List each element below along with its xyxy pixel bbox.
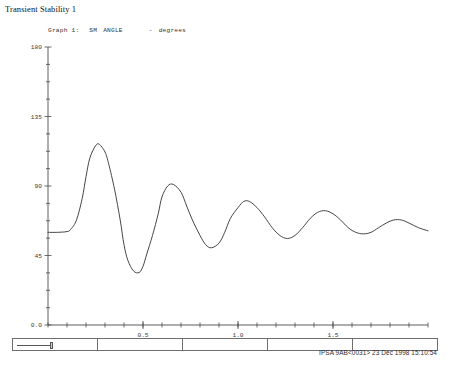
plot-area: 18013590450.0 0.51.01.5 (0, 0, 450, 373)
y-tick-label: 90 (35, 183, 43, 190)
slider-thumb[interactable] (50, 342, 53, 349)
y-tick-label: 0.0 (31, 322, 42, 329)
x-axis: 0.51.01.5 (48, 321, 428, 339)
transient-stability-chart: 18013590450.0 0.51.01.5 (0, 0, 450, 373)
data-curve-sm-angle (48, 144, 428, 273)
y-axis: 18013590450.0 (31, 44, 52, 329)
y-tick-label: 45 (35, 253, 43, 260)
slider-track[interactable] (17, 345, 51, 346)
status-bar-text: IPSA 9AB<0031> 23 Dec 1998 15:10:54 (319, 349, 437, 356)
toolbar-segment-3[interactable] (183, 339, 268, 350)
y-tick-label: 180 (31, 44, 42, 51)
toolbar-segment-slider[interactable] (13, 339, 98, 350)
y-tick-label: 135 (31, 114, 42, 121)
toolbar-segment-2[interactable] (98, 339, 183, 350)
